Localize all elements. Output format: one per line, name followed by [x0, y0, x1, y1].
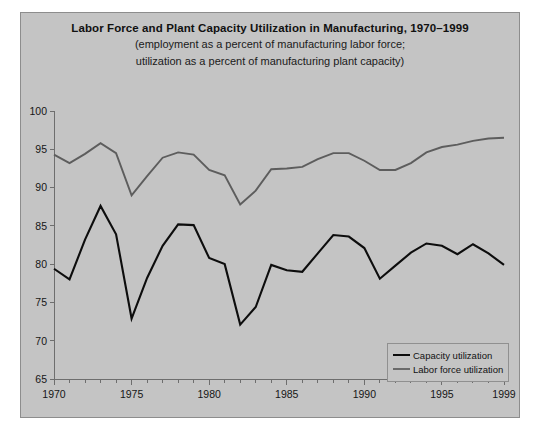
- chart-panel: Labor Force and Plant Capacity Utilizati…: [20, 12, 520, 418]
- y-axis: 65707580859095100: [29, 105, 54, 385]
- x-tick-label: 1999: [492, 388, 516, 400]
- figure-container: Labor Force and Plant Capacity Utilizati…: [0, 0, 533, 431]
- series-line-labor-force-utilization: [54, 138, 504, 205]
- x-axis: 1970197519801985199019951999: [42, 379, 516, 400]
- y-tick-label: 85: [35, 220, 47, 232]
- data-series-group: [54, 138, 504, 325]
- x-tick-label: 1980: [197, 388, 221, 400]
- x-tick-label: 1975: [120, 388, 144, 400]
- y-tick-label: 65: [35, 373, 47, 385]
- chart-legend: Capacity utilization Labor force utiliza…: [387, 343, 509, 382]
- legend-label-labor: Labor force utilization: [413, 364, 503, 375]
- legend-label-capacity: Capacity utilization: [413, 350, 492, 361]
- legend-line-swatch-labor-icon: [393, 368, 410, 370]
- legend-item-labor-force-utilization: Labor force utilization: [393, 362, 503, 376]
- x-tick-label: 1970: [42, 388, 66, 400]
- y-tick-label: 100: [29, 105, 47, 117]
- y-tick-label: 95: [35, 143, 47, 155]
- series-line-capacity-utilization: [54, 206, 504, 325]
- y-tick-label: 90: [35, 181, 47, 193]
- x-tick-label: 1990: [353, 388, 377, 400]
- y-tick-label: 75: [35, 296, 47, 308]
- x-tick-label: 1985: [275, 388, 299, 400]
- legend-item-capacity-utilization: Capacity utilization: [393, 348, 503, 362]
- legend-line-swatch-capacity-icon: [393, 354, 410, 356]
- y-tick-label: 80: [35, 258, 47, 270]
- y-tick-label: 70: [35, 335, 47, 347]
- x-tick-label: 1995: [430, 388, 454, 400]
